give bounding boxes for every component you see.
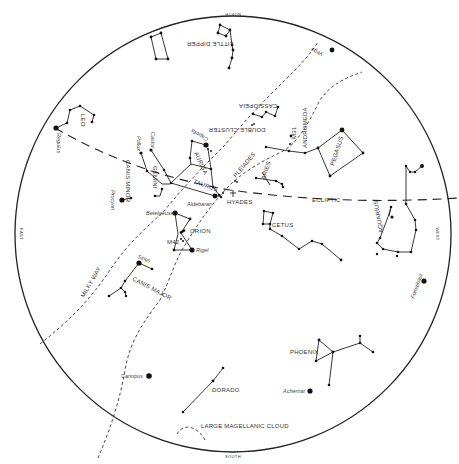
label-regulus: Regulus [56, 133, 62, 153]
star-sirius [136, 260, 141, 265]
star-procyon [119, 197, 124, 202]
label-aldebaran: Aldebaran [186, 201, 212, 207]
label-canis-major: CANIS MAJOR [132, 276, 173, 302]
direction-west: WEST [435, 227, 440, 240]
label-orion: ORION [190, 228, 211, 234]
constellation-aquarius [376, 164, 424, 257]
constellation-auriga [171, 140, 212, 183]
label-phoenix: PHOENIX [290, 349, 318, 355]
star-achernar [307, 388, 312, 393]
constellation-aries [255, 172, 284, 188]
label-auriga: AURIGA [193, 151, 209, 175]
label-cetus: CETUS [272, 222, 293, 228]
label-hyades: HYADES [227, 199, 252, 205]
lmc-outline [177, 427, 205, 440]
star-canopus [146, 373, 152, 379]
direction-east: EAST [19, 228, 24, 240]
constellation-leo [56, 105, 95, 128]
label-canopus: Canopus [121, 373, 143, 379]
direction-south: SOUTH [225, 454, 241, 459]
pleiades-marker [230, 180, 238, 197]
ecliptic-label: ECLIPTIC [312, 197, 341, 203]
constellation-phoenix [315, 335, 375, 387]
label-procyon: Procyon [110, 190, 116, 210]
milky-way-label: MILKY WAY [80, 266, 102, 299]
star-rigel [189, 247, 194, 252]
constellation-canis-major [108, 263, 154, 297]
label-pollux: Pollux [136, 136, 142, 151]
label-m31: M31 [291, 126, 297, 139]
label-aries: ARIES [260, 160, 272, 180]
label-lmc: LARGE MAGELLANIC CLOUD [201, 423, 289, 429]
constellation-pegasus [317, 128, 365, 178]
label-pleiades: PLEIADES [232, 151, 256, 179]
label-gemini: GEMINI [152, 166, 158, 189]
label-leo: LEO [80, 114, 86, 127]
label-m42: M42 [167, 239, 180, 245]
direction-north: NORTH [225, 12, 241, 17]
label-castor: Castor [150, 132, 156, 149]
label-vega: Vega [310, 47, 324, 58]
label-fomalhaut: Fomalhaut [409, 272, 424, 299]
label-betelgeuse: Betelgeuse [146, 210, 174, 216]
constellation-cetus [262, 210, 343, 262]
label-achernar: Achernar [282, 388, 306, 394]
star-vega [330, 48, 335, 53]
label-pegasus: PEGASUS [329, 136, 344, 167]
label-rigel: Rigel [196, 247, 209, 253]
label-cassiopeia: CASSIOPEIA [239, 103, 277, 109]
star-chart: NORTH SOUTH EAST WEST MILKY WAY ECLIPTIC… [0, 0, 459, 464]
star-regulus [53, 125, 58, 130]
label-andromeda: ANDROMEDA [302, 107, 308, 148]
label-double-cluster: DOUBLE CLUSTER [208, 127, 266, 133]
constellation-ursa-major-bowl [150, 32, 170, 61]
label-little-dipper: LITTLE DIPPER [186, 41, 233, 47]
label-aquarius: AQUARIUS [373, 200, 385, 233]
label-dorado: DORADO [212, 387, 240, 393]
label-canis-minor: CANIS MINOR [125, 160, 131, 203]
